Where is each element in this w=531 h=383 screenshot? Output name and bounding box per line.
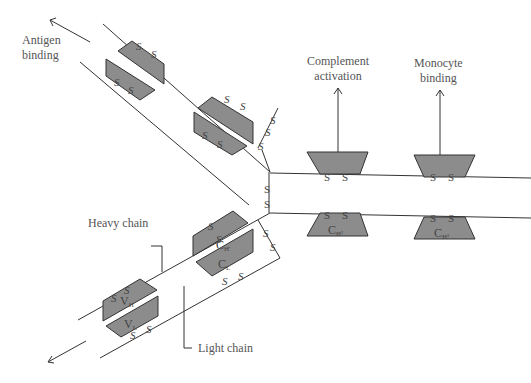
svg-text:S: S bbox=[430, 171, 436, 183]
bottom-light-chain bbox=[258, 220, 280, 258]
heavy-chain-label: Heavy chain bbox=[88, 216, 148, 231]
svg-text:S: S bbox=[264, 198, 270, 210]
svg-text:S: S bbox=[448, 212, 454, 224]
svg-text:S: S bbox=[128, 84, 134, 96]
svg-text:S: S bbox=[208, 220, 214, 232]
antigen-binding-label: Antigen binding bbox=[22, 33, 61, 63]
monocyte-binding-label: Monocyte binding bbox=[414, 56, 463, 86]
svg-text:S: S bbox=[222, 275, 228, 287]
svg-text:S: S bbox=[448, 171, 454, 183]
svg-text:S: S bbox=[238, 270, 244, 282]
svg-text:S: S bbox=[263, 227, 269, 239]
ch2-upper-domain bbox=[307, 152, 368, 174]
svg-text:S: S bbox=[342, 209, 348, 221]
svg-text:S: S bbox=[151, 48, 157, 60]
svg-text:S: S bbox=[342, 171, 348, 183]
svg-text:S: S bbox=[111, 292, 117, 304]
svg-text:S: S bbox=[217, 138, 223, 150]
fc-lower-heavy-chain bbox=[270, 213, 531, 218]
svg-text:S: S bbox=[146, 323, 152, 335]
svg-text:S: S bbox=[270, 114, 276, 126]
complement-activation-label: Complement activation bbox=[307, 54, 369, 84]
fc-upper-heavy-chain bbox=[270, 173, 531, 178]
svg-text:S: S bbox=[258, 140, 264, 152]
svg-text:S: S bbox=[270, 241, 276, 253]
ch3-upper-domain bbox=[414, 155, 475, 177]
svg-text:S: S bbox=[114, 76, 120, 88]
light-chain-label: Light chain bbox=[198, 341, 253, 356]
svg-text:S: S bbox=[202, 129, 208, 141]
svg-text:S: S bbox=[324, 209, 330, 221]
svg-text:S: S bbox=[224, 93, 230, 105]
svg-text:S: S bbox=[136, 40, 142, 52]
ch1-label: CH' bbox=[216, 238, 230, 253]
svg-text:S: S bbox=[430, 212, 436, 224]
svg-text:S: S bbox=[240, 100, 246, 112]
svg-text:S: S bbox=[265, 126, 271, 138]
svg-text:S: S bbox=[324, 171, 330, 183]
svg-text:S: S bbox=[264, 183, 270, 195]
